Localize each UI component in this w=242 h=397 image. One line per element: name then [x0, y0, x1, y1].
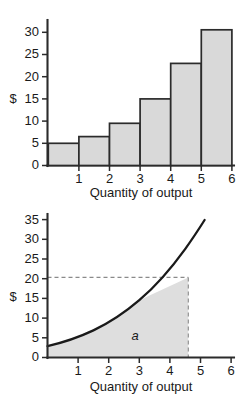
bar-chart-panel: 0 5 10 15 20 25 30 $: [0, 0, 242, 200]
curve-chart-svg: 0 5 10 15 20 25 30 35 $ a 1 2: [0, 197, 242, 397]
bar-6: [201, 30, 232, 166]
bar-chart-dollar-label: $: [9, 91, 17, 106]
bar-chart-xtick-6: 6: [228, 171, 235, 186]
curve-chart-ytick-30: 30: [25, 231, 39, 246]
curve-chart-xtick-4: 4: [166, 363, 173, 378]
curve-chart-ytick-10: 10: [25, 310, 39, 325]
bar-chart-xtick-2: 2: [106, 171, 113, 186]
bar-chart-ytick-0: 0: [32, 157, 39, 172]
curve-chart-ytick-5: 5: [32, 330, 39, 345]
figure-container: 0 5 10 15 20 25 30 $: [0, 0, 242, 397]
bar-chart-ytick-10: 10: [25, 113, 39, 128]
bar-chart-svg: 0 5 10 15 20 25 30 $: [0, 0, 242, 200]
bar-2: [79, 137, 110, 166]
curve-chart-xtick-5: 5: [197, 363, 204, 378]
bar-chart-ytick-30: 30: [25, 24, 39, 39]
curve-chart-dollar-label: $: [9, 289, 17, 304]
curve-chart-panel: 0 5 10 15 20 25 30 35 $ a 1 2: [0, 197, 242, 397]
bar-chart-ytick-20: 20: [25, 69, 39, 84]
curve-chart-ytick-15: 15: [25, 290, 39, 305]
bar-chart-xtick-1: 1: [75, 171, 82, 186]
bar-chart-ytick-15: 15: [25, 91, 39, 106]
bar-5: [171, 63, 202, 165]
curve-chart-xtick-3: 3: [136, 363, 143, 378]
curve-chart-xtick-6: 6: [227, 363, 234, 378]
bar-chart-ytick-5: 5: [32, 135, 39, 150]
bar-1: [48, 143, 79, 165]
curve-chart-ytick-35: 35: [25, 212, 39, 227]
bar-3: [110, 123, 141, 165]
curve-chart-xtick-2: 2: [105, 363, 112, 378]
bar-chart-ytick-25: 25: [25, 46, 39, 61]
bar-4: [140, 99, 171, 166]
bar-chart-xtick-4: 4: [167, 171, 174, 186]
curve-chart-ytick-0: 0: [32, 349, 39, 364]
curve-chart-x-axis-title: Quantity of output: [90, 379, 193, 394]
bar-chart-xtick-5: 5: [198, 171, 205, 186]
bar-chart-xtick-3: 3: [136, 171, 143, 186]
area-label-a: a: [131, 328, 138, 343]
curve-chart-ytick-20: 20: [25, 271, 39, 286]
curve-chart-xtick-1: 1: [74, 363, 81, 378]
curve-chart-ytick-25: 25: [25, 251, 39, 266]
